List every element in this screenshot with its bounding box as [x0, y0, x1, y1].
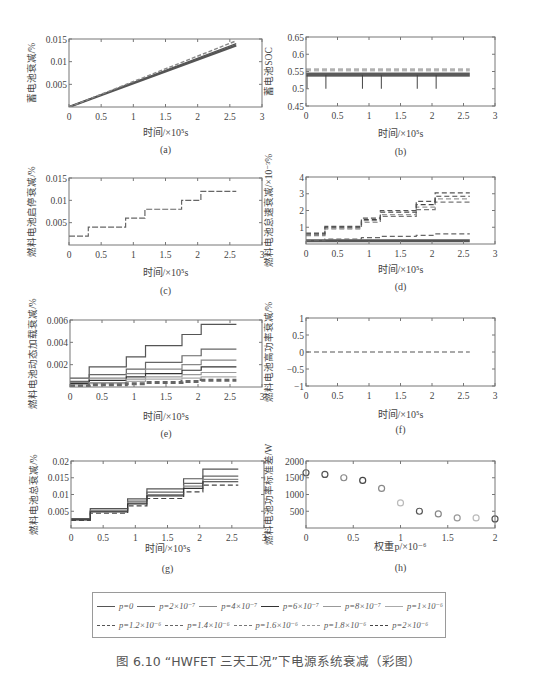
- x-axis-label: 时间/×10⁵s: [143, 266, 189, 278]
- x-tick-label: 1.5: [395, 111, 407, 121]
- legend-item: p=4×10⁻⁷: [199, 601, 257, 611]
- dashed-line-icon: [302, 625, 320, 626]
- x-tick-label: 1: [367, 249, 372, 259]
- y-tick-label: 1000: [285, 490, 304, 500]
- y-tick-label: 0.01: [50, 196, 67, 206]
- y-axis-label: 燃料电池启停衰减/%: [26, 166, 37, 257]
- plot-area: [69, 41, 236, 107]
- x-tick-label: 0: [67, 112, 72, 122]
- y-tick-label: 0.004: [47, 338, 69, 348]
- y-tick-label: 0.015: [48, 473, 70, 483]
- y-tick-label: −0.5: [287, 365, 304, 375]
- y-axis-label: 燃料电池怠速衰减/×10⁻³%: [263, 154, 274, 267]
- x-tick-label: 1: [131, 250, 136, 260]
- x-tick-label: 1: [367, 391, 372, 401]
- legend-item: p=1.8×10⁻⁶: [302, 620, 366, 630]
- legend-item: p=1×10⁻⁶: [385, 601, 443, 611]
- data-point: [473, 515, 479, 521]
- data-point: [341, 475, 347, 481]
- x-tick-label: 2: [493, 533, 498, 543]
- x-tick-label: 2.5: [224, 112, 236, 122]
- legend-label: p=1.2×10⁻⁶: [119, 620, 161, 630]
- data-point: [322, 471, 328, 477]
- x-tick-label: 3: [493, 391, 498, 401]
- plot-area: [71, 469, 238, 520]
- x-axis-label: 时间/×10⁵s: [143, 126, 189, 138]
- x-tick-label: 1.5: [395, 249, 407, 259]
- plot-area: [306, 193, 470, 241]
- legend-item: p=2×10⁻⁶: [370, 620, 428, 630]
- y-tick-label: 0.006: [47, 316, 69, 326]
- x-tick-label: 0: [304, 111, 309, 121]
- panel-label: (a): [160, 144, 171, 156]
- panel-label: (h): [395, 562, 407, 574]
- x-tick-label: 3: [493, 249, 498, 259]
- x-tick-label: 1.5: [160, 112, 172, 122]
- x-tick-label: 1: [131, 112, 136, 122]
- legend-label: p=6×10⁻⁷: [283, 601, 319, 611]
- legend-label: p=0: [119, 601, 133, 611]
- legend-row-solid: p=0p=2×10⁻⁷p=4×10⁻⁷p=6×10⁻⁷p=8×10⁻⁷p=1×1…: [97, 597, 443, 615]
- legend-label: p=1.6×10⁻⁶: [256, 620, 298, 630]
- y-tick-label: 0.45: [287, 102, 304, 112]
- plot-area: [70, 324, 236, 385]
- y-tick-label: 0.002: [47, 360, 69, 370]
- dashed-line-icon: [234, 625, 252, 626]
- x-axis-label: 权重p/×10⁻⁶: [374, 540, 427, 552]
- panel-label: (e): [160, 428, 171, 440]
- x-tick-label: 2: [430, 391, 435, 401]
- solid-line-icon: [199, 606, 217, 607]
- x-tick-label: 2.5: [458, 391, 470, 401]
- plot-area: [69, 191, 236, 236]
- legend: p=0p=2×10⁻⁷p=4×10⁻⁷p=6×10⁻⁷p=8×10⁻⁷p=1×1…: [92, 592, 446, 638]
- solid-line-icon: [261, 606, 279, 607]
- y-tick-label: 500: [290, 507, 305, 517]
- x-tick-label: 2: [197, 533, 202, 543]
- x-tick-label: 2.5: [226, 533, 238, 543]
- y-axis-label: 燃料电池总衰减/%: [28, 454, 39, 535]
- panel-label: (g): [162, 563, 174, 575]
- x-tick-label: 1.5: [162, 533, 174, 543]
- dashed-line-icon: [165, 625, 183, 626]
- x-axis-label: 时间/×10⁵s: [378, 263, 424, 275]
- y-axis-label: 蓄电池衰减/%: [26, 43, 37, 104]
- x-tick-label: 0: [68, 392, 73, 402]
- x-tick-label: 2.5: [224, 250, 236, 260]
- y-axis-label: 燃料电池动态加载衰减/%: [27, 298, 38, 409]
- data-point: [454, 515, 460, 521]
- legend-label: p=2×10⁻⁷: [159, 601, 195, 611]
- x-axis-label: 时间/×10⁵s: [378, 408, 424, 420]
- x-axis-label: 时间/×10⁵s: [145, 542, 191, 554]
- x-tick-label: 0.5: [95, 250, 107, 260]
- x-tick-label: 0: [69, 533, 74, 543]
- legend-item: p=2×10⁻⁷: [137, 601, 195, 611]
- x-tick-label: 0: [304, 391, 309, 401]
- y-axis-label: 燃料电池功率标准差/W: [263, 444, 274, 546]
- legend-label: p=2×10⁻⁶: [392, 620, 428, 630]
- x-tick-label: 0: [304, 249, 309, 259]
- y-tick-label: 0.005: [46, 80, 68, 90]
- legend-item: p=6×10⁻⁷: [261, 601, 319, 611]
- y-tick-label: 0.005: [48, 507, 70, 517]
- legend-row-dashed: p=1.2×10⁻⁶p=1.4×10⁻⁶p=1.6×10⁻⁶p=1.8×10⁻⁶…: [97, 616, 443, 634]
- figure-canvas: 00.511.522.530.0050.010.015时间/×10⁵s蓄电池衰减…: [0, 0, 537, 590]
- x-tick-label: 1.5: [160, 250, 172, 260]
- x-tick-label: 1.5: [160, 392, 172, 402]
- x-tick-label: 0.5: [95, 112, 107, 122]
- y-tick-label: 0.55: [287, 67, 304, 77]
- axes-frame: [69, 178, 262, 245]
- x-tick-label: 0.5: [97, 533, 109, 543]
- y-tick-label: 0.65: [287, 33, 304, 43]
- y-tick-label: 4: [299, 173, 304, 183]
- y-tick-label: −1: [294, 382, 304, 392]
- solid-line-icon: [385, 606, 403, 607]
- y-tick-label: 0.5: [292, 84, 304, 94]
- dashed-line-icon: [97, 625, 115, 626]
- x-axis-label: 时间/×10⁵s: [143, 410, 189, 422]
- figure-caption: 图 6.10 “HWFET 三天工况”下电源系统衰减（彩图）: [0, 651, 537, 670]
- solid-line-icon: [97, 606, 115, 607]
- chart-c: 00.511.522.530.0050.010.015时间/×10⁵s燃料电池启…: [26, 166, 265, 297]
- x-tick-label: 1: [132, 392, 137, 402]
- chart-b: 00.511.522.530.450.50.550.60.65时间/×10⁵s蓄…: [263, 33, 498, 159]
- solid-line-icon: [323, 606, 341, 607]
